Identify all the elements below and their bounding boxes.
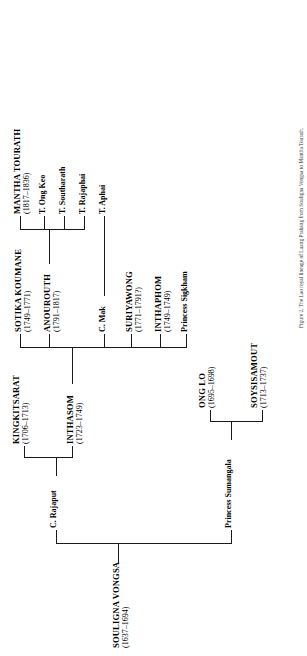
node-name: T. Ong Keo [39, 175, 47, 214]
node-name: ANOUROUTH [43, 274, 52, 332]
node-inthasom: INTHASOM (1723–1749) [66, 395, 84, 444]
edge-inthasom-to-anourouth [49, 334, 50, 348]
node-t-southarath: T. Southarath [59, 167, 67, 214]
edge-sumangala-out [231, 422, 232, 440]
edge-inthasom-to-suriyawong [131, 334, 132, 348]
node-dates: (1723–1749) [76, 395, 84, 444]
node-soysisamout: SOYSISAMOUT (1713–1737) [250, 343, 268, 408]
edge-souligna-to-sumangala [231, 530, 232, 544]
node-ong-lo: ONG LO (1695–1698) [198, 367, 216, 408]
edge-souligna-to-rajaput [56, 530, 57, 544]
node-dates: (1713–1737) [260, 343, 268, 408]
edge-rajaput-to-kingkitsarat [24, 446, 25, 458]
edge-anourouth-to-mantha [20, 216, 21, 230]
node-dates: (1637–1694) [122, 562, 130, 648]
node-name: C. Mak [99, 306, 107, 332]
node-name: SOULIGNA VONGSA [112, 562, 121, 648]
node-t-aphai: T. Aphai [99, 185, 107, 214]
node-name: MANTHA TOURATH [13, 129, 22, 214]
node-princess-sumangala: Princess Sumangala [225, 459, 233, 528]
edge-anourouth-bus [20, 229, 84, 230]
edge-rajaput-to-inthasom [72, 446, 73, 458]
node-name: ONG LO [198, 367, 207, 408]
edge-rajaput-out [56, 458, 57, 476]
edge-anourouth-to-ongkeo [44, 216, 45, 230]
node-c-rajaput: C. Rajaput [50, 490, 58, 528]
node-name: SOTIKA KOUMANE [14, 249, 23, 332]
node-name: Princess Sigkham [181, 271, 189, 332]
node-name: INTHAPHOM [154, 276, 163, 332]
node-dates: (1695–1698) [208, 367, 216, 408]
node-name: Princess Sumangala [225, 459, 233, 528]
node-dates: (1791–1817) [53, 274, 61, 332]
node-name: T. Aphai [99, 185, 107, 214]
node-mantha-tourath: MANTHA TOURATH (1817–1836) [13, 129, 31, 214]
node-sotika-koumane: SOTIKA KOUMANE (1749–1771) [14, 249, 32, 332]
node-name: SOYSISAMOUT [250, 343, 259, 408]
edge-souligna-bus [56, 543, 231, 544]
node-name: C. Rajaput [50, 490, 58, 528]
node-dates: (1817–1836) [23, 129, 31, 214]
node-kingkitsarat: KINGKITSARAT (1706–1713) [12, 375, 30, 444]
edge-inthasom-bus [20, 347, 186, 348]
figure-caption: Figure 2. The Lao royal lineage of Luang… [298, 128, 305, 328]
node-inthaphom: INTHAPHOM (1749–1749) [154, 276, 172, 332]
edge-anourouth-out [49, 230, 50, 264]
node-name: SURIYAWONG [125, 271, 134, 332]
node-t-rajaphai: T. Rajaphai [79, 174, 87, 214]
node-princess-sigkham: Princess Sigkham [181, 271, 189, 332]
edge-cmak-to-aphai [104, 216, 105, 296]
node-name: T. Southarath [59, 167, 67, 214]
node-dates: (1749–1771) [24, 249, 32, 332]
node-souligna-vongsa: SOULIGNA VONGSA (1637–1694) [112, 562, 130, 648]
node-suriyawong: SURIYAWONG (1771–1791?) [125, 271, 143, 332]
node-dates: (1771–1791?) [135, 271, 143, 332]
genealogy-chart: SOULIGNA VONGSA (1637–1694) C. Rajaput P… [0, 0, 307, 656]
edge-inthasom-to-cmak [104, 334, 105, 348]
node-name: T. Rajaphai [79, 174, 87, 214]
edge-sumangala-bus [210, 421, 262, 422]
edge-inthasom-to-sigkham [186, 334, 187, 348]
edge-anourouth-to-southarath [64, 216, 65, 230]
edge-sumangala-to-soysisamout [262, 410, 263, 422]
node-name: INTHASOM [66, 395, 75, 444]
edge-inthasom-out [72, 348, 73, 384]
edge-souligna-out [118, 544, 119, 564]
node-name: KINGKITSARAT [12, 375, 21, 444]
node-c-mak: C. Mak [99, 306, 107, 332]
edge-inthasom-to-sotika [20, 334, 21, 348]
edge-anourouth-to-rajaphai [84, 216, 85, 230]
figure-page: SOULIGNA VONGSA (1637–1694) C. Rajaput P… [0, 0, 307, 656]
node-anourouth: ANOUROUTH (1791–1817) [43, 274, 61, 332]
node-dates: (1749–1749) [164, 276, 172, 332]
edge-inthasom-to-inthaphom [160, 334, 161, 348]
node-t-ong-keo: T. Ong Keo [39, 175, 47, 214]
node-dates: (1706–1713) [22, 375, 30, 444]
edge-rajaput-bus [24, 457, 72, 458]
edge-sumangala-to-onglo [210, 410, 211, 422]
